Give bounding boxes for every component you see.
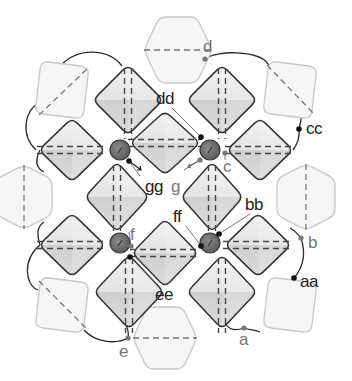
atom-label-dd: dd	[156, 89, 174, 108]
atom-point-ee	[127, 254, 133, 260]
atom-point-c	[222, 150, 227, 155]
octahedron	[189, 258, 254, 333]
pale-octahedron	[133, 307, 197, 369]
octahedron	[37, 215, 107, 274]
octahedron	[225, 120, 295, 179]
pale-octahedron	[277, 164, 335, 230]
connector-curve	[84, 330, 128, 342]
atom-label-c: c	[223, 157, 232, 176]
atom-label-g: g	[171, 177, 180, 196]
atom-label-aa: aa	[300, 272, 319, 291]
atom-point-d	[202, 56, 207, 61]
tetrahedral-site	[110, 140, 130, 160]
octahedron	[37, 120, 107, 179]
atom-label-a: a	[239, 330, 249, 349]
connector-curve	[205, 53, 268, 64]
pale-octahedron	[264, 62, 316, 118]
atom-label-b: b	[308, 233, 317, 252]
octahedron	[87, 165, 146, 236]
atom-point-dd	[198, 134, 204, 140]
pale-octahedron	[144, 17, 212, 83]
atom-point-bb	[216, 231, 222, 237]
atom-point-b	[298, 235, 303, 240]
atom-point-aa	[291, 275, 297, 281]
atom-label-ee: ee	[155, 285, 173, 304]
atom-point-f	[128, 243, 133, 248]
atom-label-ff: ff	[173, 207, 182, 226]
atom-label-cc: cc	[306, 119, 323, 138]
connector-curve	[27, 245, 40, 290]
pale-octahedron	[36, 62, 89, 118]
tetrahedral-site	[110, 233, 130, 253]
atom-label-e: e	[119, 342, 128, 361]
atom-label-bb: bb	[245, 195, 263, 214]
atom-label-f: f	[130, 225, 135, 244]
connector-curve	[293, 129, 299, 150]
atom-point-gg	[126, 158, 132, 164]
pale-octahedra-layer	[0, 17, 335, 369]
diagram-canvas: dddcccgggbbfffbeeaaae	[0, 0, 352, 381]
atom-label-gg: gg	[145, 177, 163, 196]
atom-label-d: d	[203, 37, 212, 56]
atom-point-g	[197, 157, 202, 162]
atom-point-cc	[296, 126, 302, 132]
pale-octahedron	[36, 278, 88, 332]
tetrahedral-site	[200, 140, 220, 160]
tetrahedral-site	[200, 233, 220, 253]
pale-octahedron	[0, 165, 52, 229]
atom-point-e	[125, 335, 130, 340]
polyhedral-structure-diagram: dddcccgggbbfffbeeaaae	[0, 0, 352, 381]
atom-point-ff	[198, 243, 204, 249]
